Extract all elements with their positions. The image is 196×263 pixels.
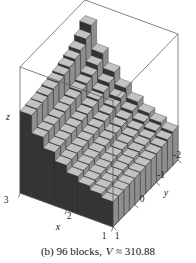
blocks-group xyxy=(20,16,178,228)
caption-prefix: (b) 96 blocks, xyxy=(41,245,102,258)
y-axis-tick-label: 0 xyxy=(140,194,145,204)
y-axis-tick xyxy=(113,227,117,230)
y-axis-tick-label: 1 xyxy=(115,231,120,241)
x-axis-tick-label: 3 xyxy=(4,195,9,205)
x-axis-label: x xyxy=(55,221,61,232)
x-axis-tick xyxy=(19,193,21,198)
caption-variable: V xyxy=(106,245,114,257)
block-column xyxy=(101,192,118,227)
block-front-face xyxy=(20,111,32,197)
caption-suffix: ≈ 310.88 xyxy=(116,245,156,257)
y-axis-tick xyxy=(135,205,139,208)
block-front-face xyxy=(78,182,90,219)
y-axis-tick-label: -1 xyxy=(157,170,165,180)
box-frame-edge xyxy=(85,0,178,34)
block-front-face xyxy=(101,198,113,227)
block-front-face xyxy=(90,190,102,223)
block-side-face xyxy=(167,134,172,171)
y-axis-label: y xyxy=(163,187,169,198)
y-axis-tick-label: -2 xyxy=(173,150,181,160)
figure: 3 2 1 1 0 -1 -2 x y z (b) 96 blocks,V≈ 3… xyxy=(0,0,196,263)
z-axis-label: z xyxy=(5,111,10,122)
figure-caption: (b) 96 blocks,V≈ 310.88 xyxy=(41,245,156,258)
box-frame-edge xyxy=(113,34,178,101)
y-axis-tick xyxy=(156,182,160,185)
block-front-face xyxy=(32,133,44,202)
y-axis-tick xyxy=(178,160,182,163)
block-front-face xyxy=(43,148,55,206)
x-axis-tick-label: 2 xyxy=(67,211,72,221)
x-axis-tick-label: 1 xyxy=(102,231,107,241)
block-front-face xyxy=(67,172,79,214)
riemann-blocks-plot: 3 2 1 1 0 -1 -2 x y z (b) 96 blocks,V≈ 3… xyxy=(0,0,196,263)
x-axis-tick xyxy=(112,227,114,232)
block-front-face xyxy=(55,161,67,210)
